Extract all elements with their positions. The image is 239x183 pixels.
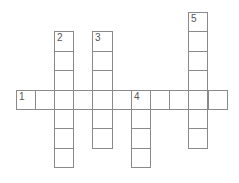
crossword-cell[interactable] <box>150 90 170 110</box>
crossword-grid: 14235 <box>0 0 239 183</box>
crossword-cell[interactable] <box>188 70 208 91</box>
crossword-cell[interactable]: 5 <box>188 12 208 32</box>
crossword-cell[interactable] <box>54 51 74 71</box>
crossword-cell[interactable] <box>188 128 208 149</box>
clue-number-label: 2 <box>57 33 63 43</box>
crossword-cell[interactable]: 2 <box>54 31 74 52</box>
crossword-cell[interactable] <box>92 70 113 91</box>
clue-number-label: 1 <box>19 92 25 102</box>
crossword-cell[interactable] <box>208 90 228 110</box>
clue-number-label: 4 <box>134 92 140 102</box>
crossword-cell[interactable]: 3 <box>92 31 113 52</box>
crossword-cell[interactable] <box>188 51 208 71</box>
crossword-cell[interactable] <box>92 90 113 110</box>
crossword-cell[interactable] <box>54 109 74 129</box>
crossword-cell[interactable]: 1 <box>16 90 36 110</box>
crossword-cell[interactable] <box>131 128 151 149</box>
crossword-cell[interactable] <box>112 90 132 110</box>
crossword-cell[interactable] <box>188 31 208 52</box>
crossword-cell[interactable] <box>92 128 113 149</box>
crossword-cell[interactable] <box>73 90 93 110</box>
crossword-cell[interactable]: 4 <box>131 90 151 110</box>
crossword-cell[interactable] <box>54 70 74 91</box>
crossword-cell[interactable] <box>35 90 55 110</box>
crossword-cell[interactable] <box>92 51 113 71</box>
crossword-cell[interactable] <box>169 90 189 110</box>
crossword-cell[interactable] <box>54 148 74 168</box>
crossword-cell[interactable] <box>54 128 74 149</box>
clue-number-label: 3 <box>95 33 101 43</box>
crossword-cell[interactable] <box>131 109 151 129</box>
clue-number-label: 5 <box>191 14 197 24</box>
crossword-cell[interactable] <box>188 90 208 110</box>
crossword-cell[interactable] <box>92 109 113 129</box>
crossword-cell[interactable] <box>188 109 208 129</box>
crossword-cell[interactable] <box>131 148 151 168</box>
crossword-cell[interactable] <box>54 90 74 110</box>
